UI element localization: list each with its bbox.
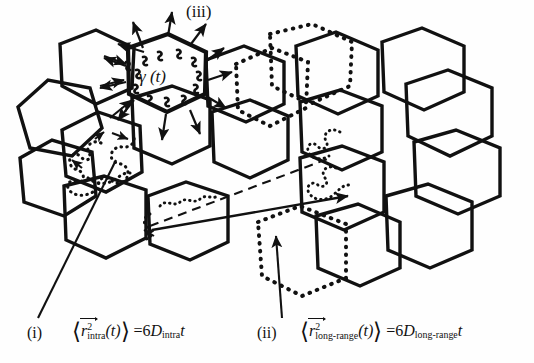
argument-long: (t) [358, 322, 373, 339]
label-iii: (iii) [186, 3, 212, 20]
time-intra: t [180, 322, 184, 339]
subscript-intra: intra [87, 331, 105, 340]
diffusion-subscript-long: long-range [415, 329, 458, 340]
argument-intra: (t) [105, 322, 120, 339]
figure-root: (iii) γ (t) (i) (ii) ⟨r2intra(t)⟩ =6Dint… [0, 0, 534, 363]
label-ii: (ii) [257, 325, 277, 341]
label-gamma-of-t: γ (t) [139, 68, 166, 85]
bracket-close-intra: ⟩ [121, 318, 130, 344]
equation-long-range-diffusion: ⟨r2long-range(t)⟩ =6Dlong-ranget [300, 320, 462, 343]
equation-intra-diffusion: ⟨r2intra(t)⟩ =6Dintrat [72, 320, 185, 343]
equals-intra: = [134, 322, 143, 339]
membrane-domain-diagram [0, 0, 534, 363]
bracket-close-long: ⟩ [373, 318, 382, 344]
diffusion-symbol-intra: D [151, 322, 163, 339]
bracket-open-long: ⟨ [300, 318, 309, 344]
diffusion-symbol-long: D [403, 322, 415, 339]
coefficient-intra: 6 [143, 322, 151, 339]
symbol-r-intra: r [81, 322, 87, 339]
diffusion-subscript-intra: intra [162, 329, 180, 340]
subscript-long: long-range [315, 331, 358, 340]
equals-long: = [386, 322, 395, 339]
bracket-open-intra: ⟨ [72, 318, 81, 344]
symbol-r-long: r [309, 322, 315, 339]
time-long: t [458, 322, 462, 339]
label-i: (i) [27, 325, 42, 341]
